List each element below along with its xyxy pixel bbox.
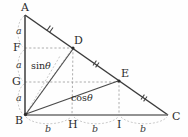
vertex-label-B: B <box>15 115 23 126</box>
vertex-label-G: G <box>12 76 21 87</box>
sin-theta-label: sinθ <box>31 61 51 71</box>
segment-length-b-BH: b <box>45 124 51 134</box>
theta-symbol-cos: θ <box>87 92 93 103</box>
vertex-label-I: I <box>117 119 121 130</box>
vertex-label-A: A <box>21 2 29 13</box>
vertex-dots <box>24 46 121 116</box>
cos-theta-label: cosθ <box>71 93 93 103</box>
dot-B <box>24 113 27 116</box>
figure-canvas <box>0 0 188 137</box>
vertex-label-E: E <box>121 68 129 79</box>
vertex-label-D: D <box>74 35 83 46</box>
segment-length-a-AF: a <box>16 26 22 36</box>
vertex-label-H: H <box>68 119 78 130</box>
theta-symbol-sin: θ <box>45 60 51 71</box>
sin-text: sin <box>31 60 45 71</box>
dashed-guides <box>25 48 119 115</box>
segment-length-b-IC: b <box>140 124 146 134</box>
segment-length-a-FG: a <box>16 60 22 70</box>
cos-text: cos <box>71 92 87 103</box>
guide-DH <box>72 48 73 115</box>
vertex-label-C: C <box>172 111 180 122</box>
segment-BD <box>26 49 73 114</box>
segment-length-b-HI: b <box>92 124 98 134</box>
segment-length-a-GB: a <box>16 93 22 103</box>
geometry-figure: A B C D E F G H I a a a b b b sinθ cosθ <box>0 0 188 137</box>
vertex-label-F: F <box>13 42 21 53</box>
